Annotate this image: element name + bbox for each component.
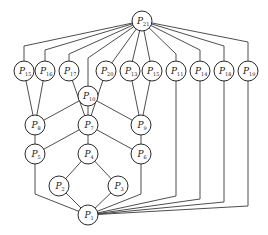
node-subscript: 13: [131, 71, 137, 77]
node-p2: P2: [49, 176, 69, 196]
node-subscript: 1: [91, 215, 94, 221]
node-subscript: 19: [249, 71, 255, 77]
nodes-layer: P21P15P16P17P20P13P15P11P14P18P19P10P8P7…: [14, 11, 258, 225]
node-subscript: 10: [89, 96, 95, 102]
node-p21: P21: [132, 11, 152, 31]
node-subscript: 18: [225, 71, 231, 77]
node-p17: P17: [59, 61, 79, 81]
hasse-diagram: P21P15P16P17P20P13P15P11P14P18P19P10P8P7…: [0, 0, 268, 235]
node-p5: P5: [25, 144, 45, 164]
node-subscript: 20: [107, 71, 113, 77]
node-subscript: 7: [91, 125, 94, 131]
node-subscript: 5: [38, 154, 41, 160]
node-subscript: 8: [38, 125, 41, 131]
node-subscript: 11: [177, 71, 183, 77]
node-p3: P3: [108, 176, 128, 196]
node-subscript: 2: [62, 186, 65, 192]
edge-p18-p1: [88, 71, 224, 215]
node-subscript: 15: [153, 71, 159, 77]
node-p13: P13: [120, 61, 140, 81]
node-p15a: P15: [14, 61, 34, 81]
node-p8: P8: [25, 115, 45, 135]
node-p11: P11: [166, 61, 186, 81]
node-subscript: 16: [46, 71, 52, 77]
edge-p11-p1: [88, 71, 176, 215]
node-subscript: 4: [91, 154, 94, 160]
diagram-canvas: P21P15P16P17P20P13P15P11P14P18P19P10P8P7…: [0, 0, 268, 235]
node-p19: P19: [238, 61, 258, 81]
node-subscript: 9: [144, 125, 147, 131]
node-p15b: P15: [142, 61, 162, 81]
node-p18: P18: [214, 61, 234, 81]
node-p10: P10: [78, 86, 98, 106]
node-subscript: 17: [70, 71, 76, 77]
node-p7: P7: [78, 115, 98, 135]
node-subscript: 6: [144, 154, 147, 160]
node-p4: P4: [78, 144, 98, 164]
edge-p14-p1: [88, 71, 200, 215]
node-p9: P9: [131, 115, 151, 135]
node-subscript: 15: [25, 71, 31, 77]
node-subscript: 21: [143, 21, 149, 27]
node-p6: P6: [131, 144, 151, 164]
node-subscript: 14: [201, 71, 207, 77]
node-p16: P16: [35, 61, 55, 81]
node-p14: P14: [190, 61, 210, 81]
node-subscript: 3: [121, 186, 124, 192]
node-p1: P1: [78, 205, 98, 225]
node-p20: P20: [96, 61, 116, 81]
